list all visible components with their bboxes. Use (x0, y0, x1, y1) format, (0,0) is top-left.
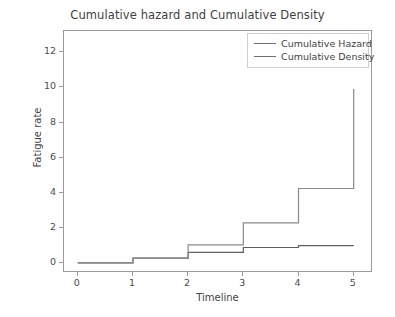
x-tick-label: 0 (65, 278, 89, 288)
legend-item-label: Cumulative Density (281, 51, 374, 62)
x-tick-label: 3 (230, 278, 254, 288)
y-tick-label: 6 (16, 152, 56, 162)
y-tick-label: 10 (16, 81, 56, 91)
y-tick-label: 4 (16, 187, 56, 197)
x-axis-label: Timeline (63, 292, 372, 303)
legend-item-cumulative-hazard[interactable]: Cumulative Hazard (252, 37, 364, 50)
legend-item-label: Cumulative Hazard (281, 38, 372, 49)
y-tick-label: 12 (16, 46, 56, 56)
x-tick-label: 2 (175, 278, 199, 288)
y-tick-label: 0 (16, 257, 56, 267)
x-tick-label: 4 (286, 278, 310, 288)
legend-item-cumulative-density[interactable]: Cumulative Density (252, 50, 364, 63)
chart-legend: Cumulative Hazard Cumulative Density (247, 33, 369, 68)
y-tick-label: 2 (16, 222, 56, 232)
series-line (78, 89, 354, 263)
series-line (78, 246, 354, 263)
y-axis-label: Fatigue rate (32, 93, 43, 183)
chart-figure: Cumulative hazard and Cumulative Density… (0, 0, 395, 317)
chart-title: Cumulative hazard and Cumulative Density (0, 8, 395, 22)
legend-line-icon (254, 56, 276, 57)
x-tick-label: 5 (341, 278, 365, 288)
x-tick-label: 1 (120, 278, 144, 288)
y-tick-label: 8 (16, 117, 56, 127)
legend-line-icon (254, 43, 276, 44)
